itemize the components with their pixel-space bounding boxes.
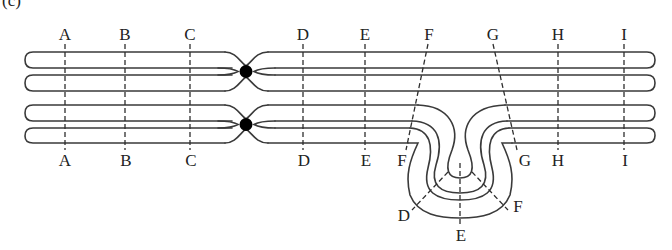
label-bottom-d: D	[298, 151, 310, 170]
label-top-c: C	[184, 25, 195, 44]
homology-guides	[65, 44, 624, 224]
label-bottom-f: F	[397, 151, 406, 170]
label-top-e: E	[360, 25, 370, 44]
bottom-labels: A B C D E F G H I	[59, 151, 628, 170]
label-bottom-b: B	[120, 151, 131, 170]
centromere-lower	[240, 118, 253, 131]
label-bottom-a: A	[59, 151, 72, 170]
inversion-loop-diagram: (c)	[0, 0, 672, 250]
label-top-h: H	[552, 25, 564, 44]
label-bottom-g: G	[519, 151, 531, 170]
label-bottom-e: E	[361, 151, 371, 170]
label-loop-f: F	[513, 197, 522, 216]
label-loop-e: E	[456, 226, 466, 245]
label-top-b: B	[119, 25, 130, 44]
label-bottom-i: I	[622, 151, 628, 170]
label-top-f: F	[424, 25, 433, 44]
label-bottom-h: H	[552, 151, 564, 170]
label-loop-d: D	[398, 206, 410, 225]
label-top-d: D	[297, 25, 309, 44]
panel-label: (c)	[2, 0, 21, 10]
label-bottom-c: C	[185, 151, 196, 170]
top-labels: A B C D E F G H I	[59, 25, 627, 44]
label-top-a: A	[59, 25, 72, 44]
label-top-g: G	[487, 25, 499, 44]
upper-chromosome	[25, 52, 655, 91]
centromere-upper	[240, 65, 253, 78]
label-top-i: I	[621, 25, 627, 44]
